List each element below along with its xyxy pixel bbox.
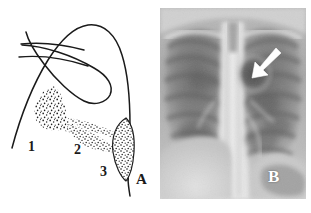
panel-label-a: A bbox=[136, 172, 147, 187]
film-grain-overlay bbox=[160, 8, 306, 199]
panel-label-b: B bbox=[268, 168, 279, 185]
lower-horizontal-line bbox=[19, 56, 88, 66]
lung-field-outline bbox=[12, 25, 130, 180]
figure-root: 1 2 3 A bbox=[0, 0, 311, 213]
panel-a-schematic-diagram: 1 2 3 A bbox=[0, 0, 158, 213]
region-label-3: 3 bbox=[100, 165, 107, 179]
panel-b-svg bbox=[160, 8, 306, 199]
panel-a-svg bbox=[0, 0, 158, 213]
lung-border-lower-right bbox=[128, 178, 130, 196]
stippled-region-3 bbox=[113, 118, 135, 181]
lung-outline-group bbox=[12, 25, 130, 196]
radiograph-image bbox=[160, 8, 306, 199]
opacity-regions-group bbox=[34, 86, 134, 181]
region-label-2: 2 bbox=[74, 143, 81, 157]
panel-b-chest-radiograph: B bbox=[160, 8, 306, 199]
region-label-1: 1 bbox=[28, 140, 35, 154]
